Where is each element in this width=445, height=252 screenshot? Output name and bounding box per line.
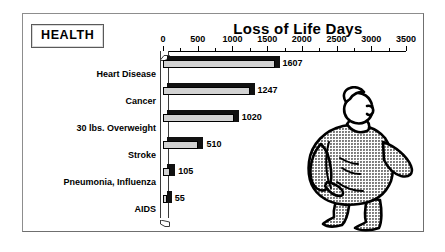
x-tick-label: 1000 [222,34,242,44]
bar-group: 1607 [163,56,281,70]
x-tick-minor [215,48,216,51]
bar-group: 55 [163,191,173,205]
category-label: Pneumonia, Influenza [63,177,156,187]
x-tick-label: 2000 [292,34,312,44]
category-label: Heart Disease [96,69,156,79]
category-label: Stroke [128,150,156,160]
bar-value-label: 1607 [283,58,303,68]
screenshot-root: HEALTH Loss of Life Days 050010001500200… [0,0,445,252]
x-tick-major [267,46,268,51]
x-tick-major [337,46,338,51]
bar-side-face [198,137,203,149]
category-label: AIDS [134,204,156,214]
category-labels: Heart DiseaseCancer30 lbs. OverweightStr… [23,14,156,233]
x-tick-major [198,46,199,51]
bar-front-face [163,60,275,68]
x-tick-label: 2500 [327,34,347,44]
overweight-person-cartoon-icon [285,86,425,232]
category-label: Cancer [125,96,156,106]
bar-group: 1247 [163,83,256,97]
bar-value-label: 510 [206,139,221,149]
bar-value-label: 1247 [258,85,278,95]
x-tick-minor [250,48,251,51]
x-axis-line [163,51,406,52]
bar-value-label: 105 [178,166,193,176]
x-tick-minor [180,48,181,51]
bar-front-face [163,87,250,95]
bar-value-label: 55 [175,193,185,203]
x-tick-label: 1500 [257,34,277,44]
bar-front-face [163,114,234,122]
bar-side-face [275,56,280,68]
x-tick-label: 500 [190,34,205,44]
x-tick-major [371,46,372,51]
bar-group: 105 [163,164,176,178]
bar-value-label: 1020 [242,112,262,122]
bar-side-face [167,191,172,203]
x-tick-label: 3000 [361,34,381,44]
axis-wall-bottom-cap [160,213,170,220]
x-tick-minor [285,48,286,51]
x-tick-major [406,46,407,51]
bar-side-face [170,164,175,176]
axis-wall-top-cap [160,47,170,53]
chart-frame: HEALTH Loss of Life Days 050010001500200… [22,13,424,232]
bar-side-face [250,83,255,95]
category-label: 30 lbs. Overweight [76,123,156,133]
bar-side-face [234,110,239,122]
x-tick-label: 3500 [396,34,416,44]
x-tick-minor [389,48,390,51]
bar-group: 510 [163,137,204,151]
bar-group: 1020 [163,110,240,124]
x-tick-minor [319,48,320,51]
x-tick-major [232,46,233,51]
x-tick-minor [354,48,355,51]
bar-front-face [163,141,198,149]
x-tick-label: 0 [160,34,165,44]
x-tick-major [302,46,303,51]
bar-front-face [163,168,170,176]
